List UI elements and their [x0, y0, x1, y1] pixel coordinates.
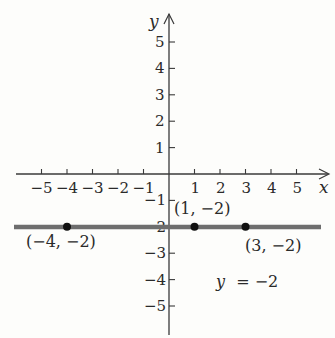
x-tick-label: 2	[216, 179, 226, 197]
x-tick-label: −2	[107, 179, 129, 197]
x-tick-label: 1	[191, 179, 201, 197]
x-tick-label: 5	[293, 179, 303, 197]
y-tick-label: −4	[144, 271, 166, 289]
equation-rhs: = −2	[236, 272, 278, 291]
x-tick-label: −4	[56, 179, 78, 197]
y-tick-label: 4	[155, 59, 165, 77]
y-tick-label: −5	[144, 297, 166, 315]
x-axis: −5−4−3−2−112345 x	[16, 169, 329, 197]
x-tick-label: 4	[267, 179, 277, 197]
point-label-a: (−4, −2)	[26, 232, 96, 251]
data-point	[63, 223, 71, 231]
y-tick-label: 1	[155, 139, 165, 157]
x-tick-label: 3	[242, 179, 252, 197]
data-point	[242, 223, 250, 231]
y-tick-label: 3	[155, 86, 165, 104]
y-tick-label: −1	[144, 191, 166, 209]
x-tick-label: −5	[31, 179, 53, 197]
x-axis-ticks: −5−4−3−2−112345	[31, 169, 303, 197]
point-label-b: (1, −2)	[174, 199, 230, 218]
data-point	[191, 223, 199, 231]
point-label-c: (3, −2)	[245, 236, 301, 255]
y-tick-label: 5	[155, 33, 165, 51]
y-tick-label: −3	[144, 244, 166, 262]
equation-annotation: y = −2	[215, 272, 278, 291]
y-axis: −5−4−3−2−112345 y	[144, 11, 175, 335]
x-tick-label: −3	[82, 179, 104, 197]
equation-lhs: y	[215, 272, 226, 291]
y-tick-label: 2	[155, 112, 165, 130]
graph-svg: −5−4−3−2−112345 x −5−4−3−2−112345 y (−4,…	[0, 0, 335, 338]
coordinate-plane: −5−4−3−2−112345 x −5−4−3−2−112345 y (−4,…	[0, 0, 335, 338]
y-axis-label: y	[148, 11, 159, 31]
x-axis-label: x	[319, 177, 329, 197]
